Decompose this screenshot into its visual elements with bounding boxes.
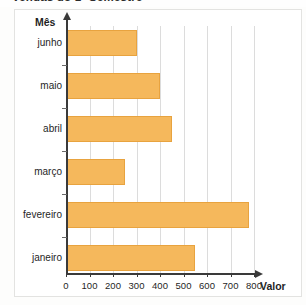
gridline-400 xyxy=(160,26,161,273)
gridline-300 xyxy=(137,26,138,273)
y-axis-line xyxy=(66,18,68,274)
gridline-100 xyxy=(90,26,91,273)
bar-janeiro xyxy=(66,245,195,271)
y-tick-label-maio: maio xyxy=(40,80,62,91)
x-tick-0 xyxy=(66,273,67,277)
y-tick-label-junho: junho xyxy=(38,37,62,48)
x-tick-200 xyxy=(113,273,114,277)
bar-abril xyxy=(66,116,172,142)
y-axis-label: Mês xyxy=(35,16,55,28)
gridline-600 xyxy=(207,26,208,273)
x-tick-600 xyxy=(207,273,208,277)
x-tick-700 xyxy=(231,273,232,277)
y-axis-arrow-icon xyxy=(63,12,71,20)
x-tick-100 xyxy=(90,273,91,277)
x-tick-800 xyxy=(254,273,255,277)
bar-marco xyxy=(66,159,125,185)
x-tick-300 xyxy=(137,273,138,277)
gridline-700 xyxy=(231,26,232,273)
y-tick-label-janeiro: janeiro xyxy=(32,252,62,263)
x-axis-line xyxy=(66,273,256,275)
bar-junho xyxy=(66,30,137,56)
bar-maio xyxy=(66,73,160,99)
chart-page: Vendas do 1º Semestre Mês Valor xyxy=(0,0,306,305)
x-tick-500 xyxy=(184,273,185,277)
y-tick-4 xyxy=(62,237,67,238)
y-tick-0 xyxy=(62,65,67,66)
x-tick-400 xyxy=(160,273,161,277)
y-tick-2 xyxy=(62,151,67,152)
gridline-200 xyxy=(113,26,114,273)
plot-area: Mês Valor junho maio abril março feverei… xyxy=(0,0,306,305)
x-axis-arrow-icon xyxy=(255,270,263,278)
y-tick-label-fevereiro: fevereiro xyxy=(23,209,62,220)
y-tick-3 xyxy=(62,194,67,195)
bar-fevereiro xyxy=(66,202,249,228)
y-tick-label-abril: abril xyxy=(43,123,62,134)
y-tick-label-marco: março xyxy=(34,166,62,177)
gridline-800 xyxy=(254,26,255,273)
y-tick-1 xyxy=(62,108,67,109)
x-tick-label-800: 800 xyxy=(239,280,269,291)
gridline-500 xyxy=(184,26,185,273)
